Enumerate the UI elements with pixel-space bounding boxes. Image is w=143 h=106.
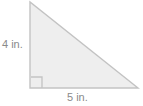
triangle-figure: 4 in. 5 in. <box>0 0 143 106</box>
triangle-shape <box>30 2 138 88</box>
vertical-leg-label: 4 in. <box>2 38 23 50</box>
horizontal-leg-label: 5 in. <box>67 91 88 103</box>
